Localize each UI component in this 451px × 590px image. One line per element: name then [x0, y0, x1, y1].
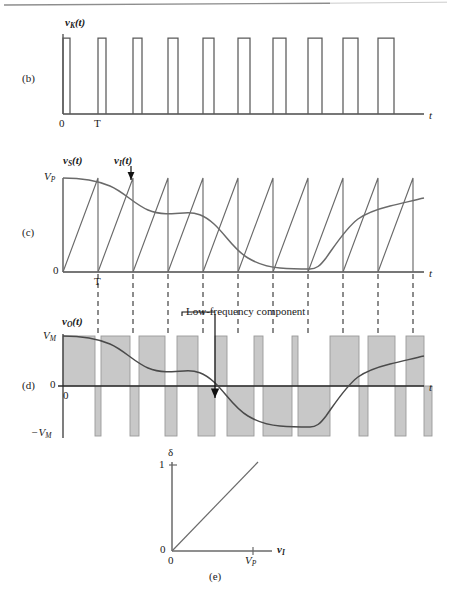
panel-c-input-signal-label-tail: (t) [122, 154, 132, 166]
panel-d-zero-level-label: 0 [50, 379, 56, 390]
panel-d-origin-label: 0 [63, 390, 69, 401]
panel-d-positive-level-label: VM [43, 330, 56, 343]
panel-b-origin-label: 0 [59, 118, 65, 129]
panel-d-negative-level-sub: M [45, 431, 51, 440]
panel-c-sawtooth-waveform [63, 166, 424, 272]
panel-e-transfer-line [172, 462, 258, 551]
panel-c-modulating-signal [63, 178, 424, 269]
panel-e-x-tick-base: V [245, 554, 252, 566]
panel-c-period-label: T [94, 276, 101, 287]
panel-letter-e: (e) [209, 571, 221, 582]
panel-d-y-axis-label: vO(t) [62, 316, 83, 329]
top-rule [4, 2, 447, 5]
panel-d-positive-level-base: V [43, 329, 50, 341]
panel-e-origin-label-secondary: 0 [168, 555, 174, 566]
figure-canvas [0, 0, 451, 590]
panel-b-clock-waveform [63, 34, 424, 114]
panel-e-y-axis-label: δ [168, 447, 173, 458]
panel-b-y-axis-label-tail: (t) [75, 16, 85, 28]
panel-e-x-axis-label: vI [277, 544, 285, 557]
panel-c-input-signal-label: vI(t) [114, 155, 132, 168]
panel-d-positive-level-sub: M [50, 334, 56, 343]
panel-b-pulse-train [63, 38, 394, 114]
panel-d-negative-level-label: −VM [31, 427, 51, 440]
panel-e-x-tick-label: VP [245, 555, 256, 568]
panel-c-y-axis-label: vS(t) [63, 155, 82, 168]
panel-b-period-label: T [94, 118, 101, 129]
panel-letter-d: (d) [22, 380, 35, 391]
panel-d-low-frequency-annotation: Low-frequency component [186, 306, 305, 317]
panel-d-pwm-output [58, 312, 432, 438]
panel-c-peak-label-base: V [44, 170, 51, 182]
panel-c-sawtooth [63, 178, 413, 272]
panel-c-x-axis-label: t [429, 268, 432, 279]
panel-c-y-axis-label-tail: (t) [72, 154, 82, 166]
panel-b-x-axis-label: t [429, 110, 432, 121]
panel-e-duty-cycle-transfer [169, 462, 272, 555]
panel-e-x-tick-sub: P [252, 559, 257, 568]
panel-b-y-axis-label: vK(t) [65, 17, 85, 30]
panel-d-x-axis-label: t [429, 382, 432, 393]
panel-letter-b: (b) [22, 73, 35, 84]
panel-c-peak-label: VP [44, 171, 55, 184]
panel-e-origin-label: 0 [160, 544, 166, 555]
panel-c-origin-label: 0 [53, 265, 59, 276]
panel-letter-c: (c) [22, 227, 34, 238]
panel-e-x-axis-label-sub: I [282, 548, 285, 557]
panel-c-peak-label-sub: P [51, 175, 56, 184]
pwm-waveform-figure: (b) vK(t) 0 T t (c) vS(t) vI(t) VP 0 T t… [0, 0, 451, 590]
panel-d-y-axis-label-tail: (t) [72, 315, 82, 327]
panel-e-y-tick-label: 1 [159, 459, 165, 470]
panel-d-negative-level-base: −V [31, 426, 45, 438]
